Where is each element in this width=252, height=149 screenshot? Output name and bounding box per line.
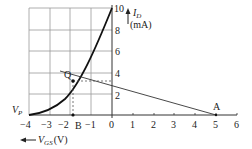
x-tick-m2: −2 bbox=[58, 119, 69, 130]
vp-label: VP bbox=[12, 104, 23, 117]
x-tick-4: 4 bbox=[192, 119, 197, 130]
x-tick-6: 6 bbox=[234, 119, 239, 130]
y-tick-2: 2 bbox=[115, 90, 120, 101]
arrow-left-icon bbox=[20, 138, 26, 143]
q-point bbox=[71, 79, 75, 83]
y-tick-6: 6 bbox=[115, 46, 120, 57]
point-b-label: B bbox=[75, 120, 82, 131]
x-tick-5: 5 bbox=[213, 119, 218, 130]
x-tick-m4: −4 bbox=[20, 119, 31, 130]
x-tick-2: 2 bbox=[151, 119, 156, 130]
a-point bbox=[215, 114, 217, 116]
x-tick-0: 0 bbox=[109, 119, 114, 130]
grid bbox=[29, 8, 112, 115]
y-axis-unit: (mA) bbox=[130, 19, 152, 31]
x-tick-3: 3 bbox=[171, 119, 176, 130]
y-tick-10: 10 bbox=[114, 3, 124, 14]
load-line bbox=[60, 71, 216, 115]
x-axis-label: VGS(V) bbox=[38, 134, 68, 147]
y-tick-4: 4 bbox=[115, 68, 120, 79]
transfer-curve bbox=[29, 8, 112, 115]
x-tick-1: 1 bbox=[130, 119, 135, 130]
x-tick-m3: −3 bbox=[41, 119, 52, 130]
arrow-up-icon bbox=[126, 8, 131, 14]
b-point bbox=[71, 113, 74, 116]
x-tick-m1: −1 bbox=[85, 119, 96, 130]
point-q-label: Q bbox=[64, 69, 72, 80]
jfet-transfer-chart: 10 8 6 4 2 −4 −3 −2 B −1 0 1 2 3 4 5 6 Q… bbox=[0, 0, 252, 149]
point-a-label: A bbox=[213, 101, 221, 112]
y-tick-8: 8 bbox=[115, 25, 120, 36]
